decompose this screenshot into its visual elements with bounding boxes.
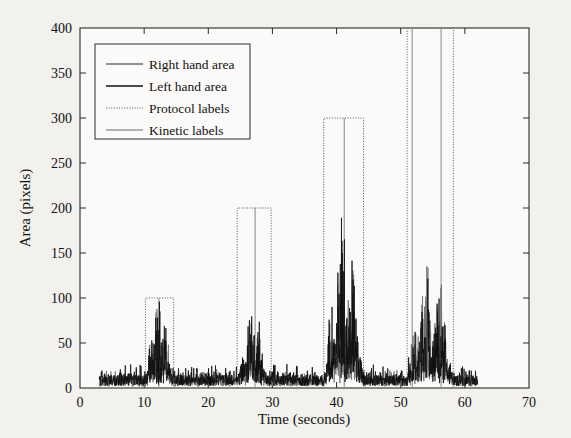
legend: Right hand areaLeft hand areaProtocol la…	[95, 44, 250, 139]
y-axis-label: Area (pixels)	[17, 169, 34, 248]
x-tick-label: 20	[201, 395, 215, 410]
y-tick-label: 200	[51, 201, 72, 216]
x-tick-label: 30	[265, 395, 279, 410]
y-tick-label: 100	[51, 291, 72, 306]
x-tick-label: 10	[137, 395, 151, 410]
x-tick-label: 50	[394, 395, 408, 410]
x-tick-label: 40	[330, 395, 344, 410]
figure-canvas: 010203040506070 050100150200250300350400…	[0, 0, 571, 438]
y-tick-label: 300	[51, 111, 72, 126]
y-tick-label: 400	[51, 21, 72, 36]
x-tick-label: 0	[77, 395, 84, 410]
legend-label-3: Protocol labels	[149, 101, 230, 116]
x-tick-label: 60	[458, 395, 472, 410]
x-tick-label: 70	[522, 395, 536, 410]
y-tick-label: 350	[51, 66, 72, 81]
x-axis-label: Time (seconds)	[258, 411, 350, 428]
y-tick-label: 150	[51, 246, 72, 261]
y-tick-label: 0	[65, 381, 72, 396]
y-tick-label: 250	[51, 156, 72, 171]
legend-label-2: Left hand area	[149, 79, 227, 94]
legend-label-1: Right hand area	[149, 57, 234, 72]
legend-label-4: Kinetic labels	[149, 123, 224, 138]
y-tick-label: 50	[58, 336, 72, 351]
